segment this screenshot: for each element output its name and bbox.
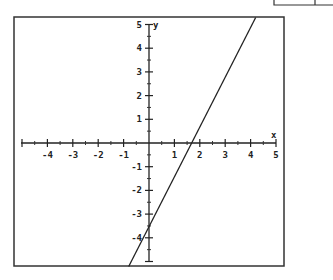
- y-tick-label: 5: [137, 20, 142, 30]
- y-tick-label: 2: [137, 91, 142, 101]
- y-axis-label: y: [153, 20, 159, 30]
- x-tick-label: -2: [93, 150, 104, 160]
- y-tick-label: 1: [137, 114, 142, 124]
- x-axis-label: x: [271, 130, 277, 140]
- x-tick-label: 5: [273, 150, 278, 160]
- x-tick-label: -4: [42, 150, 53, 160]
- x-tick-label: -3: [67, 150, 78, 160]
- plotted-line: [129, 18, 256, 267]
- x-tick-label: 4: [248, 150, 254, 160]
- corner-box: [274, 0, 333, 5]
- line-graph: -4-3-2-11234554321-1-2-3-4 x y: [0, 0, 333, 280]
- x-tick-label: -1: [118, 150, 129, 160]
- y-tick-label: -1: [131, 162, 142, 172]
- y-tick-label: 3: [137, 67, 142, 77]
- y-tick-label: -2: [131, 185, 142, 195]
- x-tick-label: 2: [197, 150, 202, 160]
- tick-labels: -4-3-2-11234554321-1-2-3-4: [42, 20, 279, 243]
- x-tick-label: 1: [172, 150, 177, 160]
- x-tick-label: 3: [222, 150, 227, 160]
- y-tick-label: 4: [137, 43, 143, 53]
- y-tick-label: -3: [131, 209, 142, 219]
